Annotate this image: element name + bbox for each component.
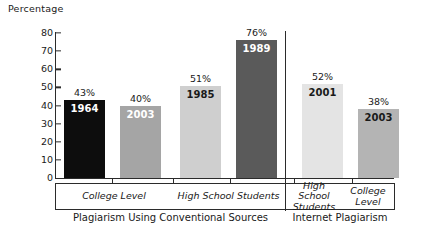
y-tick-mark-10 [55, 159, 61, 160]
label-line-2: Level [355, 196, 380, 207]
y-tick-label-60: 60 [19, 65, 53, 75]
y-tick-mark-30 [55, 123, 61, 124]
y-tick-mark-70 [55, 50, 61, 51]
y-tick-label-50: 50 [19, 83, 53, 93]
x-label-high-school-students: High School Students [172, 184, 285, 209]
caption-conventional-sources: Plagiarism Using Conventional Sources [55, 212, 286, 223]
bar-year-label: 1964 [64, 103, 105, 114]
bar-chart: Percentage 80 70 60 50 40 30 20 10 0 43%… [0, 0, 421, 227]
bar-2003-conventional[interactable]: 40% 2003 [120, 106, 161, 179]
y-tick-mark-50 [55, 87, 61, 88]
y-tick-mark-20 [55, 141, 61, 142]
bar-1964[interactable]: 43% 1964 [64, 100, 105, 178]
bar-1989[interactable]: 76% 1989 [236, 40, 277, 178]
group-label-box-internet: High SchoolStudents CollegeLevel [285, 183, 395, 210]
bar-1985[interactable]: 51% 1985 [180, 86, 221, 178]
y-tick-label-20: 20 [19, 137, 53, 147]
bar-year-label: 1985 [180, 89, 221, 100]
x-label-college-level: College Level [56, 184, 172, 209]
bar-year-label: 2001 [302, 87, 343, 98]
y-axis-title: Percentage [8, 3, 63, 14]
bar-percent-label: 51% [180, 73, 221, 84]
bar-2003-internet[interactable]: 38% 2003 [358, 109, 399, 178]
y-tick-mark-60 [55, 69, 61, 70]
bar-year-label: 2003 [358, 112, 399, 123]
y-tick-label-30: 30 [19, 119, 53, 129]
label-line-1: College [350, 185, 385, 196]
caption-internet-plagiarism: Internet Plagiarism [285, 212, 395, 223]
bar-2001[interactable]: 52% 2001 [302, 84, 343, 178]
y-tick-label-10: 10 [19, 155, 53, 165]
x-label-high-school-students-internet: High SchoolStudents [286, 184, 342, 209]
bar-percent-label: 40% [120, 93, 161, 104]
bar-percent-label: 38% [358, 96, 399, 107]
group-label-box-conventional: College Level High School Students [55, 183, 286, 210]
y-tick-mark-40 [55, 105, 61, 106]
bar-percent-label: 76% [236, 27, 277, 38]
x-axis-line [55, 178, 394, 179]
label-line-2: Students [293, 201, 335, 212]
plot-area: 80 70 60 50 40 30 20 10 0 43% 1964 40% 2… [56, 33, 394, 178]
x-label-college-level-internet: CollegeLevel [342, 184, 394, 209]
y-tick-label-40: 40 [19, 101, 53, 111]
y-tick-label-0: 0 [19, 173, 53, 183]
bar-percent-label: 43% [64, 87, 105, 98]
bar-year-label: 1989 [236, 43, 277, 54]
y-tick-label-70: 70 [19, 46, 53, 56]
bar-year-label: 2003 [120, 109, 161, 120]
label-line-1: High School [298, 180, 330, 202]
y-tick-label-80: 80 [19, 28, 53, 38]
y-tick-mark-80 [55, 32, 61, 33]
bar-percent-label: 52% [302, 71, 343, 82]
